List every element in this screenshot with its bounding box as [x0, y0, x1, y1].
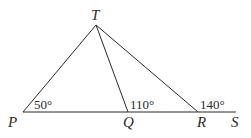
- point-label-T: T: [91, 7, 101, 23]
- point-label-Q: Q: [123, 114, 134, 130]
- angle-label-Q: 110°: [130, 97, 154, 112]
- geometry-diagram: T P Q R S 50° 110° 140°: [0, 0, 251, 138]
- angle-label-R: 140°: [200, 97, 225, 112]
- point-label-R: R: [196, 114, 206, 130]
- angle-label-P: 50°: [34, 97, 52, 112]
- point-label-P: P: [7, 114, 17, 130]
- point-label-S: S: [231, 114, 239, 130]
